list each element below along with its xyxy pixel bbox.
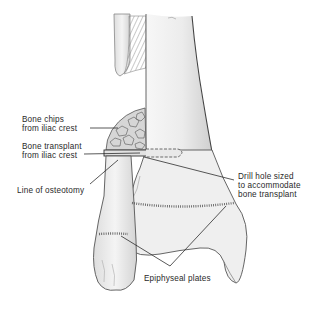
tibia-shaft bbox=[146, 14, 212, 152]
distal-fibula bbox=[94, 156, 137, 290]
label-osteotomy-line1: Line of osteotomy bbox=[17, 186, 84, 195]
label-line-of-osteotomy: Line of osteotomy bbox=[17, 186, 84, 195]
label-bone-transplant-line1: Bone transplant bbox=[22, 142, 82, 151]
label-bone-chips-line2: from iliac crest bbox=[22, 124, 77, 133]
label-epiphyseal-plates: Epiphyseal plates bbox=[144, 274, 211, 283]
bone-chips bbox=[106, 108, 146, 150]
label-drill-hole-line1: Drill hole sized bbox=[238, 172, 301, 181]
distal-tibia bbox=[129, 150, 247, 283]
label-drill-hole-line3: bone transplant bbox=[238, 190, 301, 199]
label-bone-chips: Bone chips from iliac crest bbox=[22, 115, 77, 133]
label-bone-chips-line1: Bone chips bbox=[22, 115, 77, 124]
label-epiphyseal-line1: Epiphyseal plates bbox=[144, 274, 211, 283]
label-drill-hole-line2: to accommodate bbox=[238, 181, 301, 190]
drill-hole bbox=[146, 149, 182, 157]
label-bone-transplant: Bone transplant from iliac crest bbox=[22, 142, 82, 160]
label-drill-hole: Drill hole sized to accommodate bone tra… bbox=[238, 172, 301, 200]
label-bone-transplant-line2: from iliac crest bbox=[22, 151, 82, 160]
